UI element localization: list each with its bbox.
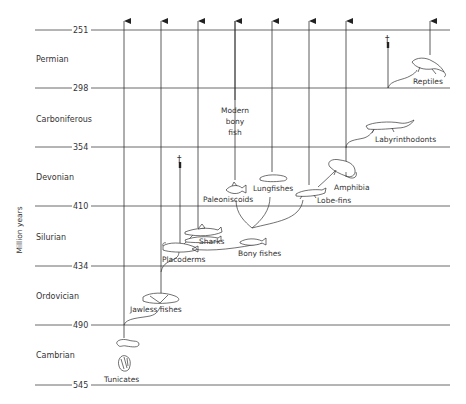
boundary-label: 410 <box>73 202 88 211</box>
period-silurian: Silurian <box>36 233 66 242</box>
extinction-marker-placoderms: † <box>177 154 182 168</box>
placoderm-icon <box>163 243 198 252</box>
amphibian-icon <box>329 159 357 178</box>
period-permian: Permian <box>36 55 69 64</box>
boundary-490: 490 <box>35 321 450 330</box>
label-amphibia: Amphibia <box>334 183 369 192</box>
labyrinthodont-icon <box>366 120 414 133</box>
label-modern-bony-fish-3: fish <box>228 128 242 137</box>
label-sharks: Sharks <box>199 237 225 246</box>
y-axis-label: Million years <box>15 206 24 253</box>
period-ordovician: Ordovician <box>36 292 79 301</box>
boundary-354: 354 <box>35 143 450 152</box>
boundary-545: 545 <box>35 381 450 390</box>
label-lobe-fins: Lobe-fins <box>317 196 351 205</box>
boundary-label: 298 <box>73 84 88 93</box>
period-devonian: Devonian <box>36 173 74 182</box>
paleoniscoid-icon <box>226 182 246 194</box>
period-cambrian: Cambrian <box>36 351 75 360</box>
label-labyrinthodonts: Labyrinthodonts <box>375 135 436 144</box>
label-modern-bony-fish-1: Modern <box>221 106 249 115</box>
label-jawless-fishes: Jawless fishes <box>129 305 182 314</box>
label-tunicates: Tunicates <box>103 375 139 384</box>
boundary-label: 545 <box>73 381 88 390</box>
boundary-label: 251 <box>73 26 88 35</box>
branch-bony-lungfishes <box>252 197 270 228</box>
label-placoderms: Placoderms <box>162 255 206 264</box>
reptile-icon <box>412 58 446 77</box>
tunicate-larva-icon <box>117 339 139 346</box>
boundary-label: 354 <box>73 143 88 152</box>
lungfish-icon <box>260 175 287 182</box>
branch-bony-lobefins <box>252 200 303 228</box>
branch-bony-paleoniscoids <box>236 200 252 228</box>
label-lungfishes: Lungfishes <box>253 184 293 193</box>
label-reptiles: Reptiles <box>413 77 443 86</box>
jawless-fish-icon <box>143 293 179 303</box>
vertebrate-evolution-diagram: Million years 251 298 354 410 434 490 54… <box>0 0 466 404</box>
bony-fish-icon <box>240 238 266 245</box>
boundary-label: 434 <box>73 262 88 271</box>
tunicate-adult-icon <box>118 356 130 372</box>
boundary-label: 490 <box>73 321 88 330</box>
period-carboniferous: Carboniferous <box>36 115 92 124</box>
label-modern-bony-fish-2: bony <box>226 117 245 126</box>
extinction-marker-labyrinthodonts: † <box>385 34 390 48</box>
label-paleoniscoids: Paleoniscoids <box>203 195 253 204</box>
branch-amphibia-labyrinthodonts <box>346 130 374 148</box>
label-bony-fishes: Bony fishes <box>238 249 281 258</box>
boundary-434: 434 <box>35 262 450 271</box>
